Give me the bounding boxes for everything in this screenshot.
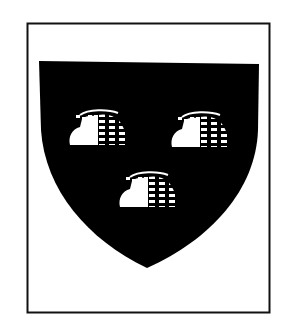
shield (39, 61, 259, 268)
coat-of-arms-illustration (0, 0, 288, 331)
